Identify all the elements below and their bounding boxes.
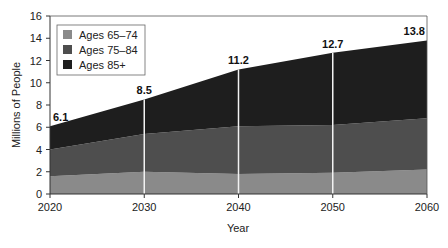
y-tick-label: 4 (36, 144, 42, 156)
total-label: 12.7 (322, 38, 343, 50)
x-tick-label: 2020 (38, 201, 62, 213)
legend-swatch (63, 30, 72, 39)
y-tick-label: 14 (30, 32, 42, 44)
x-tick-label: 2030 (132, 201, 156, 213)
x-axis-title: Year (227, 222, 250, 234)
y-tick-label: 2 (36, 166, 42, 178)
y-tick-label: 8 (36, 99, 42, 111)
legend-swatch (63, 60, 72, 69)
legend-swatch (63, 45, 72, 54)
y-tick-label: 12 (30, 55, 42, 67)
legend-label: Ages 65–74 (79, 29, 138, 41)
legend-label: Ages 85+ (79, 59, 126, 71)
y-tick-label: 10 (30, 77, 42, 89)
legend-label: Ages 75–84 (79, 44, 138, 56)
y-tick-label: 6 (36, 121, 42, 133)
total-label: 11.2 (228, 54, 249, 66)
total-label: 6.1 (53, 111, 68, 123)
x-tick-label: 2040 (226, 201, 250, 213)
x-tick-label: 2050 (321, 201, 345, 213)
total-label: 13.8 (404, 25, 425, 37)
stacked-area-chart: 024681012141620202030204020502060 6.18.5… (0, 0, 448, 248)
x-tick-label: 2060 (415, 201, 439, 213)
y-tick-label: 0 (36, 188, 42, 200)
y-axis-title: Millions of People (10, 62, 22, 148)
y-tick-label: 16 (30, 10, 42, 22)
legend: Ages 65–74Ages 75–84Ages 85+ (57, 25, 145, 75)
total-label: 8.5 (137, 84, 152, 96)
